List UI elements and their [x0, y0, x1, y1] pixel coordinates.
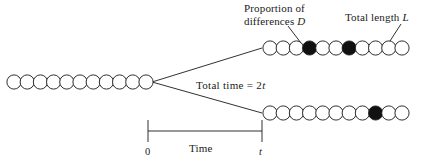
- descendant-sequence-top-site-4-substituted: [303, 41, 317, 55]
- descendant-sequence-bottom-site-8: [355, 106, 369, 120]
- total-length-label: Total length L: [345, 11, 409, 24]
- descendant-sequence-bottom-site-3: [289, 106, 303, 120]
- upper-branch: [152, 48, 262, 82]
- proportion-label-line2: differences: [244, 15, 297, 27]
- ancestral-sequence-site-11: [139, 75, 153, 89]
- descendant-sequence-top-site-1: [263, 41, 277, 55]
- descendant-sequence-top-site-11: [395, 41, 409, 55]
- descendant-sequence-top-site-8: [355, 41, 369, 55]
- proportion-variable-D: D: [297, 15, 305, 27]
- ancestral-sequence-site-2: [20, 75, 34, 89]
- ancestral-sequence-site-7: [86, 75, 100, 89]
- ancestral-sequence-site-3: [33, 75, 47, 89]
- descendant-sequence-bottom-site-9-substituted: [369, 106, 383, 120]
- ancestral-sequence-site-8: [99, 75, 113, 89]
- time-axis-text: Time: [189, 142, 212, 154]
- descendant-sequence-bottom-site-2: [276, 106, 290, 120]
- descendant-sequence-bottom-site-6: [329, 106, 343, 120]
- descendant-sequence-bottom-site-1: [263, 106, 277, 120]
- descendant-sequence-top-site-10: [382, 41, 396, 55]
- axis-zero-text: 0: [145, 146, 150, 157]
- descendant-sequence-bottom-site-10: [382, 106, 396, 120]
- ancestral-sequence-site-4: [47, 75, 61, 89]
- descendant-sequence-bottom-site-11: [395, 106, 409, 120]
- ancestral-sequence-site-5: [60, 75, 74, 89]
- proportion-of-differences-label: Proportion of differences D: [244, 2, 305, 27]
- descendant-sequence-top-site-5: [316, 41, 330, 55]
- descendant-sequence-bottom-site-5: [316, 106, 330, 120]
- time-axis-group: [148, 120, 262, 142]
- descendant-sequence-bottom-site-7: [342, 106, 356, 120]
- axis-t-text: t: [259, 146, 262, 157]
- total-time-variable-t: t: [262, 79, 265, 91]
- descendant-sequence-top-site-9: [369, 41, 383, 55]
- descendant-sequence-top-site-3: [289, 41, 303, 55]
- time-axis-label: Time: [189, 142, 212, 155]
- proportion-label-line1: Proportion of: [244, 2, 305, 14]
- descendant-sequence-top-site-7-substituted: [342, 41, 356, 55]
- total-time-label: Total time = 2t: [196, 79, 266, 92]
- ancestral-sequence-site-10: [126, 75, 140, 89]
- ancestral-sequence-site-1: [7, 75, 21, 89]
- time-axis-start-tick-label: 0: [145, 146, 150, 159]
- total-length-text: Total length: [345, 11, 402, 23]
- time-axis-end-tick-label: t: [259, 146, 262, 159]
- ancestral-sequence-site-6: [73, 75, 87, 89]
- descendant-sequence-top-chain: [263, 41, 409, 55]
- total-time-text: Total time = 2: [196, 79, 262, 91]
- descendant-sequence-top-site-2: [276, 41, 290, 55]
- descendant-sequence-bottom-site-4: [303, 106, 317, 120]
- total-length-variable-L: L: [402, 11, 408, 23]
- ancestral-sequence-chain: [7, 75, 153, 89]
- evolution-divergence-figure: Proportion of differences D Total length…: [0, 0, 422, 164]
- proportion-leader: [288, 26, 301, 43]
- descendant-sequence-bottom-chain: [263, 106, 409, 120]
- total-length-leader: [390, 24, 401, 41]
- descendant-sequence-top-site-6: [329, 41, 343, 55]
- ancestral-sequence-site-9: [113, 75, 127, 89]
